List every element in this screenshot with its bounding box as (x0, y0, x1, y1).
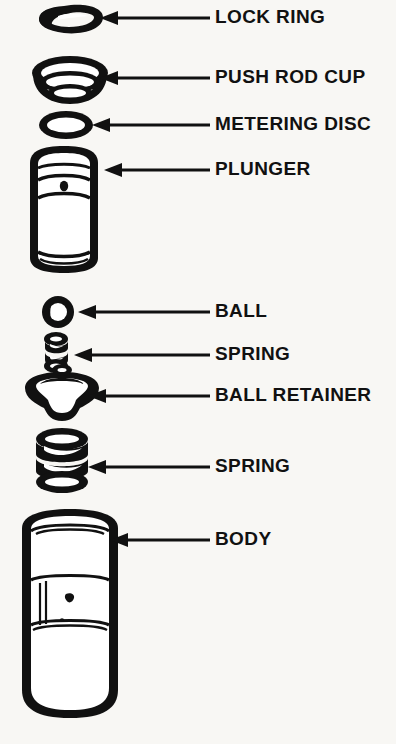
part-body (22, 509, 118, 718)
part-plunger (30, 146, 98, 273)
callout-label-spring-upper: SPRING (215, 343, 290, 364)
callout-label-metering-disc: METERING DISC (215, 113, 371, 134)
part-metering-disc (39, 111, 93, 139)
callout-label-plunger: PLUNGER (215, 158, 311, 179)
exploded-parts-diagram: LOCK RING PUSH ROD CUP METERING DISC PLU… (0, 0, 396, 744)
callout-label-spring-lower: SPRING (215, 455, 290, 476)
callout-label-lock-ring: LOCK RING (215, 6, 325, 27)
callout-label-push-rod-cup: PUSH ROD CUP (215, 66, 365, 87)
callout-label-ball-retainer: BALL RETAINER (215, 384, 372, 405)
callout-label-body: BODY (215, 528, 272, 549)
part-ball (42, 296, 74, 328)
callout-label-ball: BALL (215, 300, 267, 321)
exploded-view-canvas: LOCK RING PUSH ROD CUP METERING DISC PLU… (0, 0, 396, 744)
